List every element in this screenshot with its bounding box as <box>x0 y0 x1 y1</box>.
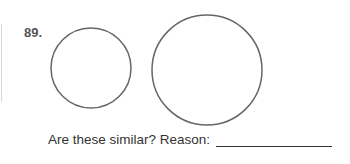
small-circle <box>51 28 131 108</box>
answer-blank[interactable] <box>216 146 332 147</box>
large-circle <box>152 15 262 125</box>
question-text: Are these similar? Reason: <box>48 132 210 147</box>
